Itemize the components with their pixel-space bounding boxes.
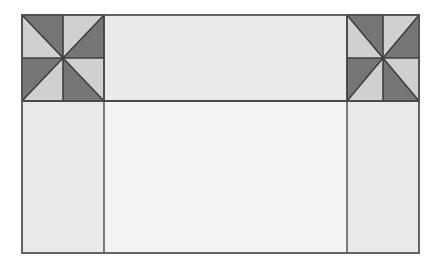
pinwheel-tl-seams bbox=[22, 15, 104, 101]
pinwheel-top-right bbox=[347, 15, 419, 101]
pinwheel-tr-seams bbox=[347, 15, 419, 101]
column-bottom-right bbox=[347, 101, 419, 253]
quilt-block-diagram: Pinwheel Corner Quilt Block Layout bbox=[0, 0, 448, 277]
panel-bottom-center bbox=[104, 101, 347, 253]
column-bottom-left bbox=[22, 101, 104, 253]
quilt-svg-canvas bbox=[0, 0, 448, 277]
pinwheel-top-left bbox=[22, 15, 104, 101]
